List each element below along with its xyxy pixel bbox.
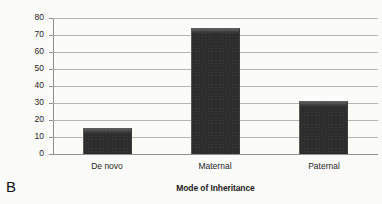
y-tick-label-80: 80 [18,13,44,22]
x-axis-label-de-novo: De novo [53,161,161,171]
x-axis-label-maternal: Maternal [161,161,269,171]
gridline-80 [53,18,378,19]
y-tick-label-70: 70 [18,30,44,39]
bar-chart-figure: Number of Cases 01020304050607080 De nov… [0,0,382,204]
panel-label: B [6,178,16,195]
y-tick-label-30: 30 [18,98,44,107]
bar-maternal [191,28,240,154]
y-tick-label-50: 50 [18,64,44,73]
gridline-0 [53,154,378,155]
y-tick-label-60: 60 [18,47,44,56]
y-tick-label-10: 10 [18,132,44,141]
y-tick-label-40: 40 [18,81,44,90]
x-axis-label-paternal: Paternal [270,161,378,171]
bar-de-novo [83,128,132,154]
x-axis-title: Mode of Inheritance [53,183,378,193]
plot-area [53,18,378,154]
y-tick-label-0: 0 [18,149,44,158]
bar-paternal [299,101,348,154]
y-tick-label-20: 20 [18,115,44,124]
